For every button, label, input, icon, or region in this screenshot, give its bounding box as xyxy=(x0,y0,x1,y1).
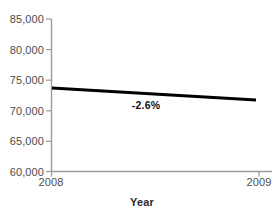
y-axis-label-85000: 85,000 xyxy=(0,13,44,25)
y-axis-label-70000: 70,000 xyxy=(0,105,44,117)
y-axis-label-80000: 80,000 xyxy=(0,44,44,56)
x-axis-title: Year xyxy=(92,196,192,208)
x-axis-label-2008: 2008 xyxy=(28,176,74,188)
percent-change-annotation: -2.6% xyxy=(116,99,176,111)
y-axis-label-65000: 65,000 xyxy=(0,135,44,147)
chart-container: 85,000 80,000 75,000 70,000 65,000 60,00… xyxy=(0,0,278,220)
x-axis-label-2009: 2009 xyxy=(236,176,278,188)
y-axis-label-75000: 75,000 xyxy=(0,74,44,86)
